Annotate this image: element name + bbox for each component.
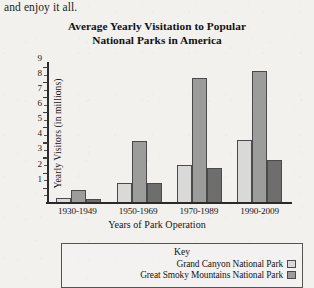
x-axis-tick-label: 1970-1989 bbox=[169, 206, 230, 216]
y-axis-tick-minor bbox=[44, 120, 47, 121]
legend-color-swatch bbox=[287, 271, 296, 279]
y-axis-tick-major bbox=[43, 157, 48, 158]
legend-color-swatch bbox=[287, 260, 296, 268]
y-axis-tick-major bbox=[43, 67, 48, 68]
legend-entries: Grand Canyon National ParkGreat Smoky Mo… bbox=[62, 259, 302, 281]
y-axis-tick-major bbox=[43, 188, 48, 189]
y-axis-tick-minor bbox=[44, 135, 47, 136]
y-axis-tick-label: 7 bbox=[37, 84, 42, 93]
bar bbox=[252, 71, 267, 202]
bar bbox=[192, 78, 207, 202]
chart-title: Average Yearly Visitation to Popular Nat… bbox=[0, 20, 314, 47]
legend-item-label: Grand Canyon National Park bbox=[177, 259, 284, 269]
y-axis-tick-major bbox=[43, 97, 48, 98]
x-axis-tick-label: 1990-2009 bbox=[229, 206, 290, 216]
plot-area: 123456789 bbox=[47, 62, 290, 204]
legend-item: Great Smoky Mountains National Park bbox=[62, 270, 302, 280]
y-axis-tick-minor bbox=[44, 165, 47, 166]
bar bbox=[267, 160, 282, 202]
legend-item: Grand Canyon National Park bbox=[62, 259, 302, 269]
x-axis-tick-label: 1930-1949 bbox=[47, 206, 108, 216]
y-axis-tick-minor bbox=[44, 105, 47, 106]
y-axis-tick-label: 5 bbox=[37, 115, 42, 124]
legend-item-label: Great Smoky Mountains National Park bbox=[140, 270, 283, 280]
y-axis-tick-major bbox=[43, 127, 48, 128]
bar-group bbox=[49, 62, 109, 202]
x-axis-tick-labels: 1930-19491950-19691970-19891990-2009 bbox=[47, 206, 290, 216]
bar bbox=[56, 198, 71, 202]
page-body-text: and enjoy it all. bbox=[4, 1, 77, 13]
chart-title-line-2: National Parks in America bbox=[0, 34, 314, 48]
legend: Key Grand Canyon National ParkGreat Smok… bbox=[61, 243, 303, 288]
y-axis-tick-major bbox=[43, 112, 48, 113]
bar-group bbox=[109, 62, 169, 202]
bar-group bbox=[230, 62, 290, 202]
bar-group bbox=[169, 62, 229, 202]
y-axis-tick-label: 9 bbox=[37, 54, 42, 63]
y-axis-tick-label: 2 bbox=[37, 160, 42, 169]
x-axis-title: Years of Park Operation bbox=[0, 219, 314, 230]
x-axis-tick-label: 1950-1969 bbox=[108, 206, 169, 216]
y-axis-tick-major bbox=[43, 173, 48, 174]
y-axis-tick-minor bbox=[44, 195, 47, 196]
y-axis-tick-minor bbox=[44, 150, 47, 151]
y-axis-tick-label: 4 bbox=[37, 130, 42, 139]
y-axis-tick-major bbox=[43, 142, 48, 143]
y-axis-tick-minor bbox=[44, 90, 47, 91]
legend-title: Key bbox=[62, 246, 302, 257]
y-axis-tick-label: 8 bbox=[37, 69, 42, 78]
bar bbox=[207, 168, 222, 202]
x-axis-line bbox=[46, 202, 292, 204]
bar-groups bbox=[49, 62, 290, 202]
bar bbox=[86, 199, 101, 202]
y-axis-tick-minor bbox=[44, 180, 47, 181]
y-axis-tick-minor bbox=[44, 75, 47, 76]
bar bbox=[117, 183, 132, 202]
bar bbox=[132, 141, 147, 202]
bar bbox=[71, 190, 86, 202]
y-axis-tick-label: 1 bbox=[37, 175, 42, 184]
chart-title-line-1: Average Yearly Visitation to Popular bbox=[0, 20, 314, 34]
y-axis-tick-major bbox=[43, 82, 48, 83]
bar bbox=[237, 140, 252, 203]
y-axis-tick-label: 3 bbox=[37, 145, 42, 154]
bar bbox=[147, 183, 162, 202]
y-axis-tick-label: 6 bbox=[37, 100, 42, 109]
bar bbox=[177, 165, 192, 202]
